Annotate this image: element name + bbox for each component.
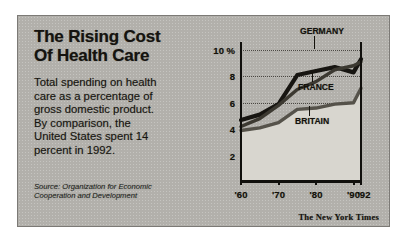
x-tick-label-80: '80 xyxy=(310,189,323,200)
y-tick-label-4: 4 xyxy=(230,124,235,135)
x-tick-label-92: '92 xyxy=(358,189,371,200)
y-tick-label-2: 2 xyxy=(230,150,235,161)
chart-figure-panel: The Rising Cost Of Health Care Total spe… xyxy=(17,15,390,227)
deck-line-5: United States spent 14 xyxy=(34,130,199,144)
right-axis-line xyxy=(360,42,362,182)
series-label-britain: BRITAIN xyxy=(295,116,329,126)
deck-line-1: Total spending on health xyxy=(34,76,199,90)
series-label-germany: GERMANY xyxy=(300,26,344,36)
x-tick-mark-90 xyxy=(353,180,355,185)
leader-line-britain xyxy=(309,106,310,116)
x-axis-line xyxy=(240,180,362,183)
leader-line-france xyxy=(312,72,313,82)
headline-line-1: The Rising Cost xyxy=(34,27,199,46)
x-tick-label-60: '60 xyxy=(235,189,248,200)
x-tick-mark-80 xyxy=(315,180,317,185)
deck-line-4: By comparison, the xyxy=(34,117,199,131)
y-tick-label-6: 6 xyxy=(230,97,235,108)
x-tick-mark-70 xyxy=(278,180,280,185)
deck-line-3: gross domestic product. xyxy=(34,103,199,117)
figure-deck: Total spending on health care as a perce… xyxy=(34,76,199,158)
deck-line-6: percent in 1992. xyxy=(34,144,199,158)
y-tick-label-8: 8 xyxy=(230,71,235,82)
source-line-1: Source: Organization for Economic xyxy=(34,182,206,191)
series-label-france: FRANCE xyxy=(298,82,334,92)
y-tick-label-10: 10 % xyxy=(213,44,235,55)
source-note: Source: Organization for Economic Cooper… xyxy=(34,182,206,201)
x-tick-mark-92 xyxy=(360,180,362,185)
x-tick-label-70: '70 xyxy=(272,189,285,200)
source-line-2: Cooperation and Development xyxy=(34,191,206,200)
series-lines xyxy=(240,42,362,183)
leader-line-germany xyxy=(314,36,315,49)
plot-area: 246810 % '60'70'80'90'92 GERMANYFRANCEBR… xyxy=(240,42,362,182)
deck-line-2: care as a percentage of xyxy=(34,90,199,104)
page-title: The Rising Cost Of Health Care xyxy=(34,27,199,65)
publisher-credit: The New York Times xyxy=(298,212,379,222)
line-chart: 246810 % '60'70'80'90'92 GERMANYFRANCEBR… xyxy=(204,24,384,220)
y-axis-line xyxy=(240,42,242,182)
headline-line-2: Of Health Care xyxy=(34,46,199,65)
x-tick-mark-60 xyxy=(240,180,242,185)
figure-text-column: The Rising Cost Of Health Care Total spe… xyxy=(34,27,199,158)
